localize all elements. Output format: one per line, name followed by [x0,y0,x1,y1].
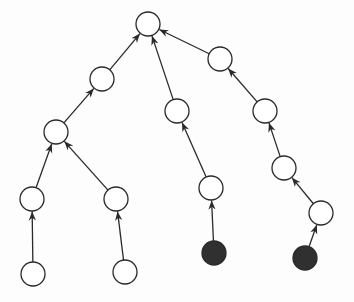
edge-arrow-F-to-D [64,141,108,190]
tree-node-L [272,156,296,180]
tree-node-B [165,99,189,123]
edges-layer [32,29,317,262]
tree-node-D [44,120,68,144]
edge-arrow-L-to-K [269,123,280,157]
tree-node-E [20,187,44,211]
edge-arrow-M-to-L [292,178,313,204]
edge-arrow-H-to-F [118,211,124,260]
tree-node-R [136,12,160,36]
edge-arrow-N-to-M [309,225,317,247]
tree-node-H [113,260,137,284]
tree-node-F [104,187,128,211]
tree-node-C [208,47,232,71]
filled-node-N [293,246,317,270]
edge-arrow-K-to-C [228,68,257,101]
filled-node-J [202,241,226,265]
tree-node-A [90,67,114,91]
edge-arrow-G-to-E [32,211,33,262]
tree-diagram [0,0,354,302]
edge-arrow-C-to-R [159,29,209,53]
edge-arrow-D-to-A [64,88,94,122]
tree-node-I [199,176,223,200]
edge-arrow-J-to-I [212,200,214,241]
edge-arrow-A-to-R [110,34,140,70]
nodes-layer [20,12,333,286]
tree-node-G [21,262,45,286]
tree-node-M [309,201,333,225]
edge-arrow-I-to-B [182,122,206,177]
edge-arrow-B-to-R [152,36,173,100]
tree-diagram-canvas [0,0,354,302]
edge-arrow-E-to-D [36,144,52,188]
tree-node-K [253,99,277,123]
